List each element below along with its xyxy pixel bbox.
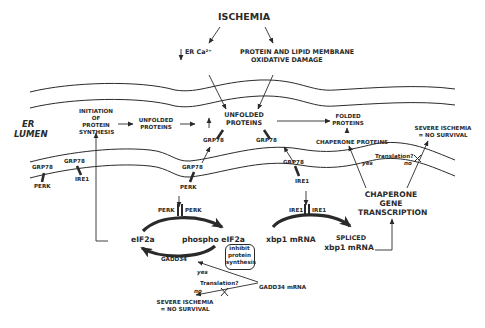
perk-active: PERK	[180, 184, 197, 190]
er-calcium-label: ER Ca²⁺	[185, 49, 212, 56]
spliced-line1: SPLICED	[326, 235, 376, 242]
ire1-resting: IRE1	[75, 176, 89, 182]
grp78-ire1-resting: GRP78	[64, 158, 85, 164]
yes-upper: yes	[362, 160, 373, 166]
unfolded-center-line2: PROTEINS	[222, 120, 266, 127]
initiation-line2: OF	[79, 115, 113, 121]
translation-question-upper: Translation?	[375, 153, 413, 159]
grp78-perk-active: GRP78	[182, 164, 203, 170]
er-stress-ischemia-diagram: ISCHEMIA ER Ca²⁺ PROTEIN AND LIPID MEMBR…	[0, 0, 485, 328]
unfolded-left-line2: PROTEINS	[136, 124, 176, 130]
initiation-line4: SYNTHESIS	[79, 129, 113, 135]
no-lower: no	[194, 288, 202, 294]
gadd34-label: GADD34	[161, 256, 187, 262]
eif2a-label: eIF2a	[131, 236, 155, 245]
folded-line1: FOLDED	[331, 113, 365, 119]
ire1-dimer-right: IRE1	[312, 207, 326, 213]
ire1-active: IRE1	[295, 178, 309, 184]
inhibit-line1: inhibit	[226, 245, 253, 251]
chaperone-proteins-label: CHAPERONE PROTEINS	[316, 139, 388, 145]
severe-ischemia-bottom-line1: SEVERE ISCHEMIA	[154, 299, 216, 305]
er-membrane-upper	[30, 80, 455, 108]
yes-lower: yes	[197, 269, 208, 275]
initiation-line1: INITIATION	[79, 108, 113, 114]
gadd34-mrna-label: GADD34 mRNA	[259, 284, 306, 290]
severe-ischemia-top-line2: = NO SURVIVAL	[410, 132, 476, 138]
grp78-perk-resting: GRP78	[32, 164, 53, 170]
severe-ischemia-top-line1: SEVERE ISCHEMIA	[410, 125, 476, 131]
grp78-bound-left: GRP78	[203, 137, 224, 143]
xbp1-mrna-label: xbp1 mRNA	[266, 236, 316, 245]
initiation-line3: PROTEIN	[79, 122, 113, 128]
no-upper: no	[404, 160, 412, 166]
grp78-bound-right: GRP78	[256, 137, 277, 143]
perk-resting: PERK	[34, 183, 51, 189]
translation-question-lower: Translation?	[200, 280, 238, 286]
perk-dimer-left: PERK	[158, 207, 175, 213]
oxidative-damage-line2: OXIDATIVE DAMAGE	[251, 57, 323, 64]
inhibit-line2: protein	[226, 252, 253, 258]
chaperone-gene-line3: TRANSCRIPTION	[358, 209, 424, 218]
er-membrane-lower	[30, 142, 455, 178]
ischemia-title: ISCHEMIA	[218, 12, 270, 23]
spliced-line2: xbp1 mRNA	[322, 244, 376, 253]
perk-dimer-right: PERK	[185, 207, 202, 213]
ire1-dimer-left: IRE1	[289, 207, 303, 213]
severe-ischemia-bottom-line2: = NO SURVIVAL	[154, 306, 216, 312]
unfolded-left-line1: UNFOLDED	[136, 117, 176, 123]
grp78-ire1-active: GRP78	[283, 159, 304, 165]
folded-line2: PROTEINS	[331, 120, 365, 126]
inhibit-line3: synthesis	[226, 259, 253, 265]
er-lumen-label-line2: LUMEN	[14, 130, 48, 140]
